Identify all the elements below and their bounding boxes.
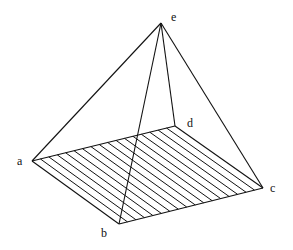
hatch-line <box>66 153 153 216</box>
hatch-line <box>91 147 178 210</box>
hatch-line <box>74 151 161 214</box>
vertex-label-e: e <box>171 10 176 24</box>
hatch-line <box>125 138 213 200</box>
vertex-labels: e a b c d <box>17 10 275 240</box>
hatch-line <box>108 142 196 204</box>
hatch-line <box>167 128 255 190</box>
pyramid-edges <box>32 23 263 224</box>
hatch-line <box>40 159 127 222</box>
hatch-line <box>133 136 221 198</box>
edge-ec <box>161 23 263 188</box>
hatch-line <box>141 134 229 196</box>
edge-ea <box>32 23 161 161</box>
edge-ab <box>32 161 119 224</box>
hatch-line <box>116 140 204 202</box>
hatch-line <box>82 149 169 212</box>
hatch-line <box>99 145 186 208</box>
hatch-line <box>150 132 238 194</box>
vertex-label-c: c <box>270 181 275 195</box>
edge-ed <box>161 23 175 126</box>
pyramid-diagram: e a b c d <box>0 0 293 250</box>
vertex-label-b: b <box>101 226 107 240</box>
base-hatching <box>40 128 254 222</box>
edge-dc <box>175 126 263 188</box>
edge-eb <box>119 23 161 224</box>
hatch-line <box>49 157 136 220</box>
vertex-label-a: a <box>17 154 23 168</box>
vertex-label-d: d <box>187 116 193 130</box>
